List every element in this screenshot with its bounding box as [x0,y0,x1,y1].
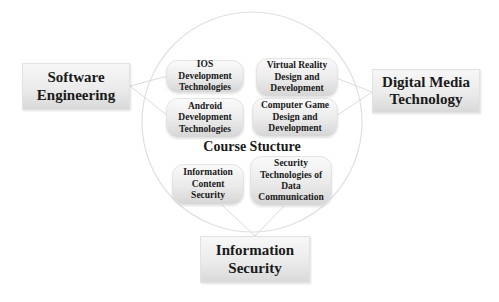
digital-media-technology-box: Digital Media Technology [372,69,480,113]
computer-game-node: Computer Game Design and Development [252,98,338,137]
course-structure-title: Course Stucture [200,139,304,155]
ios-development-node: IOS Development Technologies [166,60,244,93]
virtual-reality-node: Virtual Reality Design and Development [256,58,338,97]
connector-se-android [130,86,168,116]
digital-media-technology-label: Digital Media Technology [373,74,479,109]
software-engineering-box: Software Engineering [22,63,130,110]
information-security-label: Information Security [216,242,294,277]
virtual-reality-label: Virtual Reality Design and Development [265,60,329,94]
ios-development-label: IOS Development Technologies [169,59,241,93]
information-content-security-label: Information Content Security [181,167,235,201]
information-security-box: Information Security [200,236,310,283]
computer-game-label: Computer Game Design and Development [259,100,331,134]
connector-is-sectech [255,205,285,236]
android-development-label: Android Development Technologies [177,101,233,135]
android-development-node: Android Development Technologies [166,98,244,138]
security-technologies-node: Security Technologies of Data Communicat… [250,156,332,206]
security-technologies-label: Security Technologies of Data Communicat… [253,158,329,204]
connector-dm-game [336,92,372,116]
software-engineering-label: Software Engineering [23,69,129,104]
information-content-security-node: Information Content Security [172,164,244,205]
